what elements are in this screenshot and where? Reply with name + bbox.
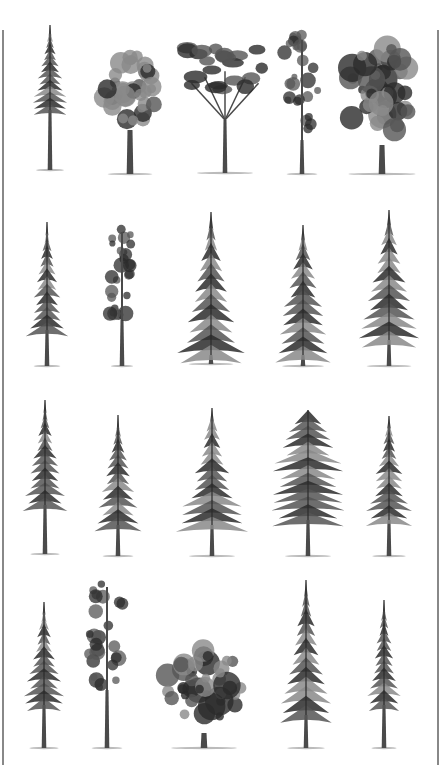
tree-conifer [24, 602, 64, 749]
tree-columnar-pine [277, 30, 321, 175]
tree-broadleaf-oval [94, 50, 162, 175]
tree-spruce-open [176, 408, 248, 557]
tree-conifer [367, 600, 400, 749]
tree-conifer [94, 415, 141, 557]
tree-broadleaf-round [156, 639, 247, 749]
tree-conifer [33, 25, 67, 171]
tree-conifer [26, 222, 68, 367]
tree-conifer [23, 400, 68, 555]
tree-illustration-canvas [0, 0, 440, 765]
tree-broadleaf-large [338, 35, 418, 175]
tree-fir [275, 225, 330, 367]
tree-spruce-open [366, 416, 412, 557]
tree-spruce-full [177, 212, 245, 365]
tree-spruce-full [280, 580, 331, 749]
tree-columnar-pine [84, 580, 128, 749]
tree-columnar-pine [103, 225, 137, 367]
tree-broad-conifer [271, 410, 344, 557]
tree-spruce-open [359, 210, 419, 367]
tree-umbrella-pine [177, 42, 268, 174]
